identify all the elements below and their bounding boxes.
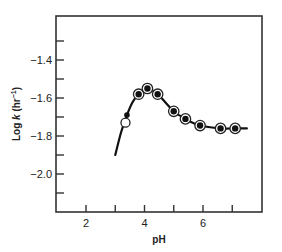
x-tick-label: 6: [200, 217, 206, 229]
y-axis-ticks: [56, 41, 64, 193]
data-point-fill: [135, 91, 141, 97]
y-tick-label: −1.4: [30, 54, 52, 66]
y-tick-label: −1.6: [30, 92, 52, 104]
x-axis-tick-labels: 246: [83, 217, 206, 229]
x-tick-label: 4: [141, 217, 147, 229]
data-point-fill: [171, 108, 177, 114]
data-point-fill: [182, 116, 188, 122]
data-point-markers: [121, 83, 240, 133]
plot-frame: [56, 16, 262, 212]
data-point-fill: [154, 91, 160, 97]
data-point-fill: [197, 122, 203, 128]
x-axis-ticks: [86, 205, 232, 212]
data-point-fill: [144, 85, 150, 91]
data-point-small-filled: [124, 112, 130, 118]
data-point-open: [121, 118, 130, 127]
data-point-fill: [217, 125, 223, 131]
x-tick-label: 2: [83, 217, 89, 229]
data-point-fill: [232, 125, 238, 131]
y-tick-label: −2.0: [30, 168, 52, 180]
y-axis-tick-labels: −1.4−1.6−1.8−2.0: [30, 54, 52, 180]
chart: −1.4−1.6−1.8−2.0 246 pH Log k (hr−1): [0, 0, 282, 252]
y-axis-title: Log k (hr−1): [10, 87, 22, 141]
x-axis-title: pH: [152, 234, 165, 245]
y-tick-label: −1.8: [30, 130, 52, 142]
